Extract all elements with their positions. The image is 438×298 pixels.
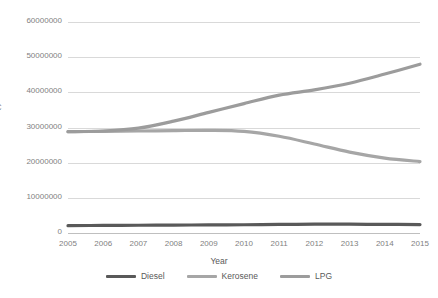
legend-label: Kerosene	[222, 271, 258, 281]
x-axis-tick-label: 2007	[129, 239, 147, 249]
legend-item-diesel[interactable]: Diesel	[106, 271, 165, 281]
x-axis-tick-label: 2006	[94, 239, 112, 249]
series-layer	[0, 0, 438, 298]
legend-item-kerosene[interactable]: Kerosene	[187, 271, 258, 281]
legend-label: Diesel	[141, 271, 165, 281]
x-axis-tick-label: 2009	[200, 239, 218, 249]
chart-container: 0100000002000000030000000400000005000000…	[0, 0, 438, 298]
x-axis-tick-label: 2010	[235, 239, 253, 249]
legend-swatch-icon	[280, 275, 310, 278]
x-axis-tick-label: 2013	[341, 239, 359, 249]
x-axis-title: Year	[0, 256, 438, 266]
legend-swatch-icon	[187, 275, 217, 278]
chart-legend: DieselKeroseneLPG	[0, 271, 438, 281]
x-axis-tick-label: 2015	[411, 239, 429, 249]
x-axis-tick-label: 2012	[305, 239, 323, 249]
series-line-diesel	[68, 224, 420, 225]
x-axis-tick-label: 2008	[165, 239, 183, 249]
legend-item-lpg[interactable]: LPG	[280, 271, 332, 281]
x-axis-tick-labels: 2005200620072008200920102011201220132014…	[0, 239, 438, 253]
legend-swatch-icon	[106, 275, 136, 278]
x-axis-tick-label: 2011	[271, 239, 288, 249]
x-axis-tick-label: 2014	[376, 239, 394, 249]
series-line-kerosene	[68, 130, 420, 161]
legend-label: LPG	[315, 271, 332, 281]
x-axis-tick-label: 2005	[59, 239, 77, 249]
series-line-lpg	[68, 64, 420, 132]
